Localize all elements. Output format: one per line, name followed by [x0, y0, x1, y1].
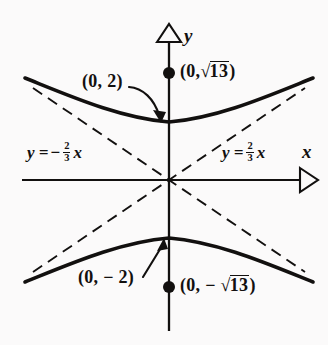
x-axis-label: x — [302, 142, 312, 161]
asymptote-right-variable: x — [257, 144, 266, 161]
focus-upper-label: (0,√13) — [180, 61, 236, 80]
focus-lower-radicand: 13 — [230, 275, 250, 294]
fraction-two-thirds-right: 2 3 — [246, 141, 253, 163]
hyperbola-figure: y x (0,√13) (0, 2) (0, − 2) (0, − √13) y… — [0, 0, 328, 345]
asymptote-right-numerator: 2 — [246, 141, 253, 152]
asymptote-right-lhs: y = — [222, 144, 243, 161]
focus-upper-point-marker — [163, 67, 175, 79]
fraction-two-thirds-left: 2 3 — [63, 141, 70, 163]
vertex-upper-label: (0, 2) — [82, 72, 123, 90]
vertex-lower-label: (0, − 2) — [78, 268, 134, 286]
sqrt-icon-upper: √13 — [200, 61, 229, 80]
focus-upper-prefix: (0, — [180, 61, 200, 81]
annotation-arrow-lower-vertex — [143, 246, 162, 277]
focus-upper-radicand: 13 — [210, 61, 230, 80]
asymptote-left-denominator: 3 — [63, 152, 70, 164]
x-axis-arrow-icon — [300, 168, 318, 192]
hyperbola-plot-canvas — [0, 0, 328, 345]
y-axis-label: y — [184, 26, 192, 45]
focus-lower-suffix: ) — [249, 275, 255, 295]
focus-lower-label: (0, − √13) — [180, 275, 256, 294]
focus-upper-suffix: ) — [229, 61, 235, 81]
asymptote-left-equation-label: y = − 2 3 x — [27, 141, 82, 163]
focus-lower-prefix: (0, − — [180, 275, 216, 295]
sqrt-icon-lower: √13 — [221, 275, 250, 294]
asymptote-right-denominator: 3 — [246, 152, 253, 164]
focus-lower-point-marker — [163, 281, 175, 293]
asymptote-left-sign: − — [50, 144, 60, 161]
asymptote-left-variable: x — [73, 144, 82, 161]
asymptote-left-lhs: y = — [27, 144, 48, 161]
asymptote-right-equation-label: y = 2 3 x — [222, 141, 265, 163]
asymptote-left-numerator: 2 — [63, 141, 70, 152]
y-axis-arrow-icon — [157, 24, 181, 42]
